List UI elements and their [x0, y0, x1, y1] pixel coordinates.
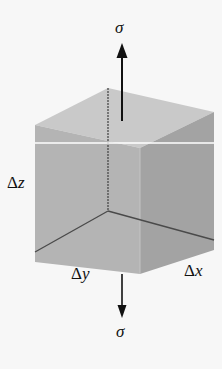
delta-y-delta: Δ: [71, 264, 82, 283]
delta-x-label: Δx: [184, 262, 202, 279]
delta-x-var: x: [195, 261, 203, 280]
sigma-bottom-arrowhead-icon: [118, 305, 127, 318]
delta-x-delta: Δ: [184, 261, 195, 280]
sigma-top-arrowhead-icon: [117, 43, 128, 58]
sigma-bottom-label: σ: [116, 323, 124, 340]
delta-z-var: z: [18, 173, 25, 192]
delta-z-delta: Δ: [7, 173, 18, 192]
sigma-top-label: σ: [115, 19, 123, 36]
delta-y-label: Δy: [71, 265, 89, 282]
delta-z-label: Δz: [7, 174, 25, 191]
stress-cube-diagram: [0, 0, 222, 369]
delta-y-var: y: [82, 264, 90, 283]
cube-front-left-face: [35, 125, 140, 274]
